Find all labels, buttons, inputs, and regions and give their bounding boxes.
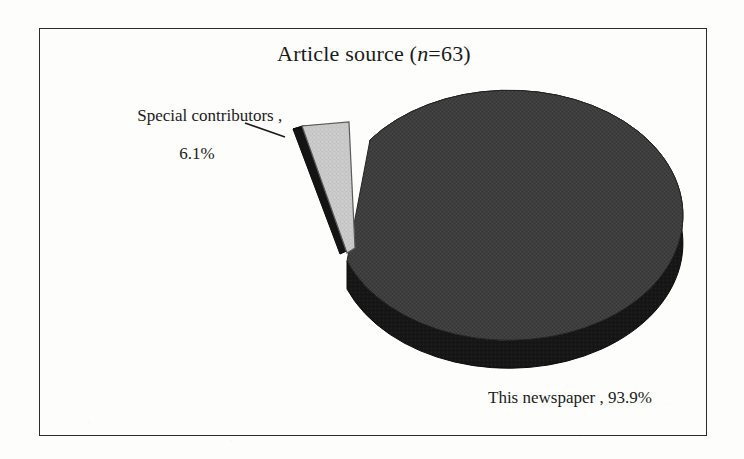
pie-label-this-newspaper: This newspaper , 93.9%: [488, 388, 652, 407]
pie-label-special-contributors-name: Special contributors ,: [137, 106, 282, 125]
pie-slice-special-contributors: [293, 122, 355, 254]
pie-label-special-contributors: Special contributors , 6.1%: [102, 87, 292, 201]
scanned-page-canvas: Article source (n=63): [0, 0, 744, 459]
pie-slice-special-contributors-top: [302, 122, 355, 253]
chart-frame: Article source (n=63): [39, 28, 707, 436]
pie-slice-this-newspaper: [347, 90, 683, 368]
pie-slice-this-newspaper-top: [347, 90, 683, 340]
pie-label-special-contributors-value: 6.1%: [102, 144, 292, 163]
